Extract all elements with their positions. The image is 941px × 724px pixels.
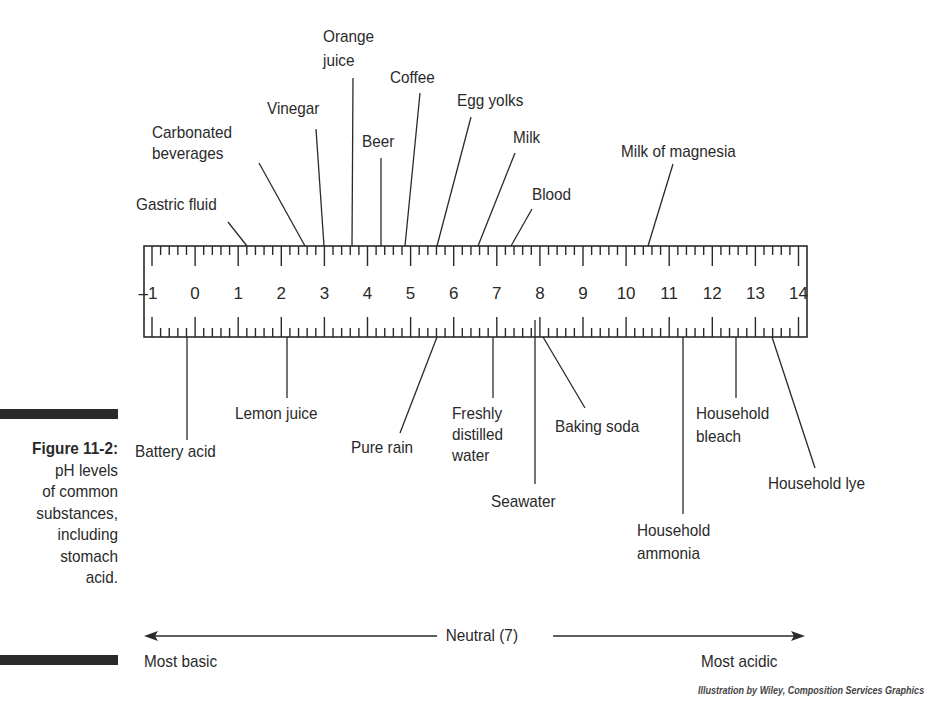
ruler-number: 10 (617, 284, 636, 303)
ruler-number: 4 (363, 284, 372, 303)
ruler-number: 12 (703, 284, 722, 303)
label-carbonated-1: Carbonated (152, 122, 232, 143)
caption-line: substances, (0, 503, 118, 525)
ruler-number: 0 (190, 284, 199, 303)
label-distilled-1: Freshly (452, 403, 502, 424)
ruler-number: 8 (535, 284, 544, 303)
illustration-credit: Illustration by Wiley, Composition Servi… (698, 684, 924, 696)
ruler-number: 1 (233, 284, 242, 303)
figure-caption: Figure 11-2: pH levels of common substan… (0, 438, 118, 589)
caption-rule-bottom (0, 655, 118, 665)
label-carbonated-2: beverages (152, 143, 223, 164)
label-ammonia-2: ammonia (637, 543, 700, 564)
label-bleach-1: Household (696, 403, 769, 424)
label-battery-acid: Battery acid (135, 441, 216, 462)
ruler-number: 9 (578, 284, 587, 303)
label-milk: Milk (513, 127, 540, 148)
label-egg-yolks: Egg yolks (457, 90, 523, 111)
label-household-lye: Household lye (768, 473, 865, 494)
neutral-label: Neutral (7) (443, 625, 521, 646)
ruler-number: 11 (660, 284, 678, 303)
ruler-number: 7 (492, 284, 501, 303)
label-blood: Blood (532, 184, 571, 205)
label-distilled-3: water (452, 445, 489, 466)
most-basic-label: Most basic (144, 651, 217, 672)
label-baking-soda: Baking soda (555, 416, 639, 437)
label-vinegar: Vinegar (267, 98, 319, 119)
caption-line: pH levels (0, 460, 118, 482)
label-pure-rain: Pure rain (351, 437, 413, 458)
figure-number: Figure 11-2: (32, 439, 118, 458)
ruler-numbers: –101234567891011121314 (139, 284, 808, 303)
label-coffee: Coffee (390, 67, 435, 88)
ruler-number: 3 (320, 284, 329, 303)
ruler-number: 13 (746, 284, 765, 303)
caption-line: acid. (0, 567, 118, 589)
ruler-number: 5 (406, 284, 415, 303)
label-gastric-fluid: Gastric fluid (136, 194, 217, 215)
label-beer: Beer (362, 131, 394, 152)
caption-line: stomach (0, 546, 118, 568)
ruler-number: 6 (449, 284, 458, 303)
label-lemon-juice: Lemon juice (235, 403, 318, 424)
label-milk-of-magnesia: Milk of magnesia (621, 141, 736, 162)
label-bleach-2: bleach (696, 426, 741, 447)
label-distilled-2: distilled (452, 424, 503, 445)
label-ammonia-1: Household (637, 520, 710, 541)
caption-line: of common (0, 481, 118, 503)
ruler-number: 14 (789, 284, 808, 303)
label-orange-2: juice (323, 50, 354, 71)
caption-line: including (0, 524, 118, 546)
caption-rule-top (0, 409, 118, 419)
ruler-number: 2 (277, 284, 286, 303)
label-orange-1: Orange (323, 26, 374, 47)
most-acidic-label: Most acidic (701, 651, 778, 672)
label-seawater: Seawater (491, 491, 556, 512)
ruler-ticks (152, 246, 799, 337)
ruler-number: –1 (139, 284, 158, 303)
